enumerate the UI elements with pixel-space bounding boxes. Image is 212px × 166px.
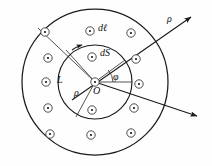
- label-radius-vector: ρ: [167, 14, 172, 24]
- angle-phi-upper-side: [95, 60, 125, 82]
- field-dot: [87, 131, 95, 139]
- label-loop-L: L: [57, 75, 63, 85]
- label-radius-inner: ρ: [74, 88, 79, 98]
- field-dot: [41, 28, 49, 36]
- field-dot: [44, 54, 52, 62]
- field-dot: [135, 80, 143, 88]
- field-dot: [127, 129, 135, 137]
- label-angle-phi: φ: [113, 72, 119, 82]
- field-dot: [86, 27, 94, 35]
- label-area-element: dS: [100, 48, 110, 58]
- field-dot: [88, 106, 96, 114]
- field-dot: [130, 104, 138, 112]
- vector-lower-right: [95, 82, 197, 116]
- field-dot: [132, 55, 140, 63]
- field-dot: [44, 104, 52, 112]
- label-current-element: dℓ: [98, 23, 107, 33]
- figure-root: dℓ dS L O φ ρ ρ: [0, 0, 212, 166]
- field-dot: [46, 130, 54, 138]
- field-dot: [42, 78, 50, 86]
- label-origin: O: [93, 86, 100, 96]
- field-dot: [127, 29, 135, 37]
- field-dot: [88, 53, 96, 61]
